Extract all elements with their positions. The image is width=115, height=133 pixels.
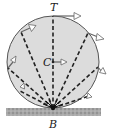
label-top: T	[50, 1, 59, 14]
velocity-arrow-lower-right	[87, 93, 93, 99]
label-bottom: B	[48, 118, 57, 131]
velocity-arrow-right	[98, 67, 106, 74]
label-center: C	[43, 56, 52, 69]
rolling-wheel-diagram: T C B	[0, 0, 115, 133]
